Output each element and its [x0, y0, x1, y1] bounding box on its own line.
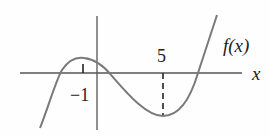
tick-label-minus-one: −1	[70, 85, 89, 105]
axis-label-x: x	[251, 63, 261, 84]
tick-label-five: 5	[157, 46, 166, 66]
curve-label-fx: f(x)	[223, 35, 249, 57]
curve-fx	[40, 15, 217, 128]
function-graph: −1 5 f(x) x	[0, 0, 270, 137]
graph-canvas: −1 5 f(x) x	[0, 0, 270, 137]
